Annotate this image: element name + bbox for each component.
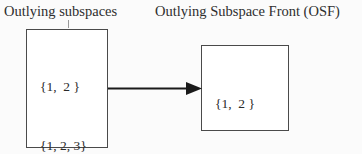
title-tick-mark xyxy=(68,20,69,28)
list-item: {1, 2 } xyxy=(40,77,87,97)
right-panel-title: Outlying Subspace Front (OSF) xyxy=(155,3,340,19)
osf-list: {1, 2 } {1, 4} {2, 4, 5} xyxy=(215,55,262,154)
list-item: {1, 2, 3} xyxy=(40,136,87,155)
list-item: {1, 2 } xyxy=(215,94,262,114)
outlying-subspaces-list: {1, 2 } {1, 2, 3} {1, 4} {2, 4, 5} {1, 4… xyxy=(40,38,87,154)
list-item: {1, 4} xyxy=(215,153,262,155)
flow-arrow-icon xyxy=(108,80,202,97)
diagram-figure: Outlying subspaces Outlying Subspace Fro… xyxy=(0,0,362,154)
left-panel-title: Outlying subspaces xyxy=(4,3,117,19)
